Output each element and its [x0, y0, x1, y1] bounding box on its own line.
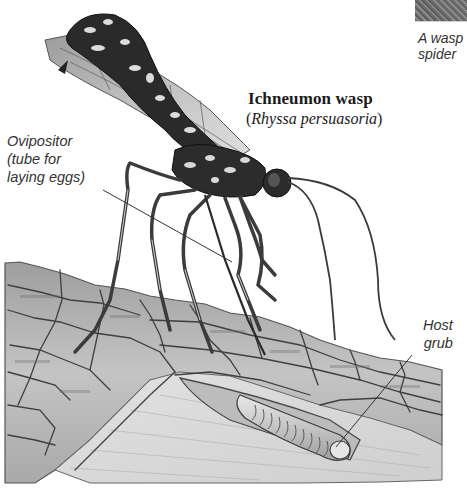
figure-title: Ichneumon wasp	[248, 89, 382, 109]
ichneumon-wasp-illustration	[0, 0, 467, 490]
ovipositor-label: Ovipositor (tube for laying eggs)	[7, 132, 85, 186]
side-caption-line2: spider	[418, 46, 463, 62]
side-caption: A wasp spider	[418, 30, 463, 62]
wasp-antennae	[288, 178, 395, 340]
host-grub-label-line2: grub	[423, 334, 453, 352]
figure-title-block: Ichneumon wasp (Rhyssa persuasoria)	[248, 89, 382, 128]
host-grub-label-line1: Host	[423, 316, 453, 334]
wood-bark	[5, 262, 442, 483]
ovipositor-label-line3: laying eggs)	[7, 168, 85, 186]
wasp-spider-photo-thumbnail	[415, 0, 467, 22]
scientific-name-close-paren: )	[377, 110, 382, 127]
host-grub-label: Host grub	[423, 316, 453, 352]
ovipositor-label-line1: Ovipositor	[7, 132, 85, 150]
scientific-name: Rhyssa persuasoria	[251, 110, 377, 127]
ovipositor-label-line2: (tube for	[7, 150, 85, 168]
side-caption-line1: A wasp	[418, 30, 463, 46]
scientific-name-line: (Rhyssa persuasoria)	[246, 109, 382, 128]
